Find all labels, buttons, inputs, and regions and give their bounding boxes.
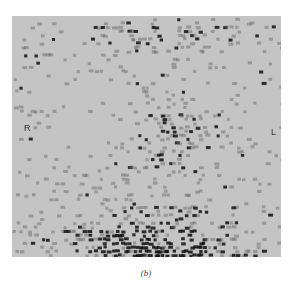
figure: R L (b) (0, 0, 292, 291)
scan-canvas (12, 16, 281, 257)
panel-caption: (b) (0, 268, 292, 278)
scintigram-image (12, 16, 281, 257)
orientation-right-label: R (24, 124, 31, 133)
orientation-left-label: L (271, 128, 276, 137)
